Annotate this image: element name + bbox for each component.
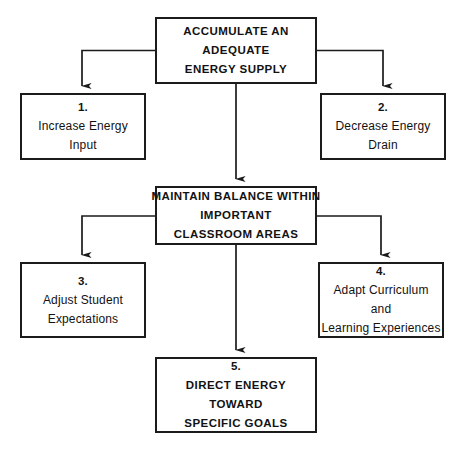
- node-line: ACCUMULATE AN: [183, 22, 289, 41]
- node-line: Drain: [368, 136, 397, 155]
- node-line: CLASSROOM AREAS: [174, 225, 299, 244]
- node-increase-energy-input[interactable]: 1. Increase Energy Input: [20, 93, 146, 160]
- node-line: Increase Energy: [38, 117, 128, 136]
- node-line: MAINTAIN BALANCE WITHIN: [151, 187, 320, 206]
- node-number: 5.: [231, 357, 241, 376]
- node-decrease-energy-drain[interactable]: 2. Decrease Energy Drain: [320, 93, 446, 160]
- node-line: Decrease Energy: [336, 117, 431, 136]
- node-number: 2.: [378, 98, 388, 117]
- node-direct-energy-specific-goals[interactable]: 5. DIRECT ENERGY TOWARD SPECIFIC GOALS: [155, 357, 317, 433]
- node-line: Adjust Student: [43, 291, 123, 310]
- node-line: Input: [69, 136, 96, 155]
- node-adjust-student-expectations[interactable]: 3. Adjust Student Expectations: [20, 262, 146, 338]
- node-number: 4.: [376, 262, 386, 281]
- connector-maintain-to-adjust: [82, 216, 155, 255]
- node-line: and: [371, 300, 391, 319]
- node-number: 3.: [78, 272, 88, 291]
- connector-accumulate-to-increase: [82, 51, 155, 87]
- node-line: DIRECT ENERGY: [186, 376, 286, 395]
- connector-accumulate-to-decrease: [317, 51, 383, 87]
- node-line: IMPORTANT: [200, 206, 272, 225]
- node-maintain-balance[interactable]: MAINTAIN BALANCE WITHIN IMPORTANT CLASSR…: [155, 186, 317, 245]
- node-line: ENERGY SUPPLY: [185, 60, 287, 79]
- node-line: Expectations: [48, 310, 119, 329]
- flowchart-figure: ACCUMULATE AN ADEQUATE ENERGY SUPPLY 1. …: [0, 0, 462, 450]
- node-accumulate-energy-supply[interactable]: ACCUMULATE AN ADEQUATE ENERGY SUPPLY: [155, 17, 317, 84]
- connector-maintain-to-adapt: [317, 216, 381, 255]
- node-line: Learning Experiences: [321, 319, 440, 338]
- node-number: 1.: [78, 98, 88, 117]
- node-line: ADEQUATE: [202, 41, 269, 60]
- node-line: SPECIFIC GOALS: [184, 414, 287, 433]
- node-adapt-curriculum[interactable]: 4. Adapt Curriculum and Learning Experie…: [318, 262, 444, 338]
- node-line: Adapt Curriculum: [333, 281, 428, 300]
- node-line: TOWARD: [209, 395, 263, 414]
